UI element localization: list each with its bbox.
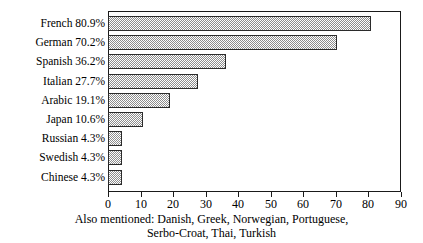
- bar-row-label: Chinese 4.3%: [41, 168, 105, 187]
- bar: [108, 74, 198, 89]
- bar: [108, 150, 122, 165]
- caption-line-1: Also mentioned: Danish, Greek, Norwegian…: [0, 212, 423, 226]
- bar-row: Italian 27.7%: [0, 72, 423, 91]
- bar-row: Swedish 4.3%: [0, 148, 423, 167]
- bar-row-label: French 80.9%: [40, 14, 105, 33]
- bar: [108, 93, 170, 108]
- bar-row: Spanish 36.2%: [0, 52, 423, 71]
- bar: [108, 131, 122, 146]
- caption-line-2: Serbo-Croat, Thai, Turkish: [0, 226, 423, 240]
- chart-caption: Also mentioned: Danish, Greek, Norwegian…: [0, 212, 423, 240]
- bar-row-label: Russian 4.3%: [42, 129, 105, 148]
- bar: [108, 16, 371, 31]
- bar: [108, 54, 226, 69]
- x-tick-label: 90: [381, 197, 421, 211]
- bar-row: Russian 4.3%: [0, 129, 423, 148]
- bar-rows: French 80.9%German 70.2%Spanish 36.2%Ita…: [0, 11, 423, 192]
- bar-row-label: Spanish 36.2%: [36, 52, 105, 71]
- bar-row-label: German 70.2%: [35, 33, 105, 52]
- bar: [108, 170, 122, 185]
- chart-page: French 80.9%German 70.2%Spanish 36.2%Ita…: [0, 0, 423, 243]
- bar-row-label: Italian 27.7%: [43, 72, 105, 91]
- x-axis-line: [108, 191, 401, 192]
- bar-row-label: Arabic 19.1%: [41, 91, 105, 110]
- bar-row: Chinese 4.3%: [0, 168, 423, 187]
- bar-row-label: Swedish 4.3%: [39, 148, 105, 167]
- bar: [108, 35, 337, 50]
- bar-row-label: Japan 10.6%: [46, 110, 105, 129]
- bar-row: French 80.9%: [0, 14, 423, 33]
- bar: [108, 112, 143, 127]
- bar-row: Japan 10.6%: [0, 110, 423, 129]
- bar-row: German 70.2%: [0, 33, 423, 52]
- bar-row: Arabic 19.1%: [0, 91, 423, 110]
